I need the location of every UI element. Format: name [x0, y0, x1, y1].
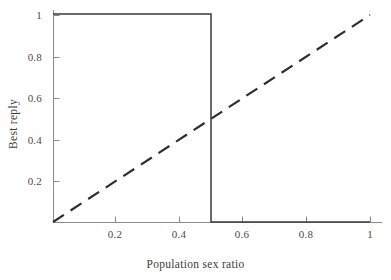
ytick-label-0.2: 0.2 [16, 175, 42, 187]
xtick-label-0.4: 0.4 [172, 228, 186, 240]
ytick-label-0.6: 0.6 [16, 92, 42, 104]
ytick-label-0.8: 0.8 [16, 51, 42, 63]
y-axis-ticks [54, 16, 60, 182]
xtick-label-0.2: 0.2 [108, 228, 122, 240]
chart-figure: 1 0.8 0.6 0.4 0.2 0.2 0.4 0.6 0.8 1 Popu… [0, 0, 391, 280]
ytick-label-1: 1 [16, 9, 42, 21]
x-axis-title: Population sex ratio [0, 258, 391, 270]
xtick-label-0.6: 0.6 [235, 228, 249, 240]
chart-canvas [0, 0, 391, 280]
y-axis-title: Best reply [7, 74, 19, 174]
ytick-label-0.4: 0.4 [16, 134, 42, 146]
xtick-label-0.8: 0.8 [299, 228, 313, 240]
xtick-label-1: 1 [367, 228, 373, 240]
